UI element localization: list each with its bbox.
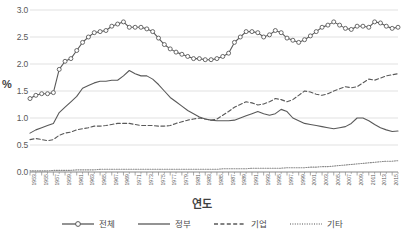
x-tick-label: 1965 [102,174,107,186]
x-tick-label: 1987 [231,174,236,186]
data-point-marker [69,57,73,61]
data-point-marker [297,40,301,44]
chart-legend: 전체정부기업기타 [0,219,403,229]
data-point-marker [256,31,260,35]
data-point-marker [133,25,137,29]
data-point-marker [92,31,96,35]
data-point-marker [180,52,184,56]
x-tick-label: 1995 [277,174,282,186]
x-tick-label: 1977 [172,174,177,186]
data-point-marker [98,30,102,34]
x-tick-label: 1975 [161,174,166,186]
data-point-marker [326,23,330,27]
data-point-marker [250,30,254,34]
data-point-marker [367,25,371,29]
data-point-marker [244,30,248,34]
data-point-marker [221,54,225,58]
data-point-marker [355,24,359,28]
legend-label: 기타 [327,219,343,229]
data-point-marker [110,24,114,28]
x-tick-label: 1983 [207,174,212,186]
data-point-marker [390,26,394,30]
x-tick-label: 2013 [382,174,387,186]
legend-item-전체[interactable]: 전체 [61,219,115,229]
data-point-marker [349,27,353,31]
data-point-marker [314,30,318,34]
data-point-marker [104,29,108,33]
data-point-marker [86,35,90,39]
x-tick-label: 1999 [301,174,306,186]
x-tick-label: 2011 [371,174,376,185]
data-point-marker [267,33,271,37]
data-point-marker [291,38,295,42]
legend-swatch-solid [137,219,171,229]
data-point-marker [186,54,190,58]
x-tick-label: 1971 [137,174,142,186]
data-point-marker [238,35,242,39]
x-tick-label: 1969 [125,174,130,186]
legend-label: 정부 [175,219,191,229]
data-point-marker [273,29,277,33]
x-axis-tick-labels: 1953195519571959196119631965196719691971… [30,174,398,196]
data-point-marker [332,20,336,24]
series-layer [28,20,400,171]
data-point-marker [121,20,125,24]
x-tick-label: 1957 [55,174,60,186]
data-point-marker [28,97,32,101]
data-point-marker [162,43,166,47]
gridlines [30,10,398,145]
legend-label: 전체 [99,219,115,229]
data-point-marker [396,25,400,29]
x-tick-label: 1993 [266,174,271,186]
x-tick-label: 1959 [67,174,72,186]
line-chart: % 0.00.51.01.52.02.53.0 1953195519571959… [0,0,403,250]
data-point-marker [51,91,55,95]
data-point-marker [127,25,131,29]
data-point-marker [320,25,324,29]
data-point-marker [338,23,342,27]
legend-item-기타[interactable]: 기타 [289,219,343,229]
x-axis-title: 연도 [0,195,403,211]
x-tick-label: 2009 [359,174,364,186]
x-tick-label: 1973 [149,174,154,186]
x-tick-label: 1961 [79,174,84,186]
data-point-marker [139,25,143,29]
x-tick-label: 1991 [254,174,259,186]
data-point-marker [303,38,307,42]
data-point-marker [34,93,38,97]
x-tick-label: 2003 [324,174,329,186]
data-point-marker [174,50,178,54]
legend-swatch-solid-marker [61,219,95,229]
data-point-marker [57,67,61,71]
series-line-기업 [30,74,398,141]
chart-canvas [0,0,403,250]
legend-item-기업[interactable]: 기업 [213,219,267,229]
data-point-marker [209,58,213,62]
x-tick-label: 2005 [336,174,341,186]
legend-item-정부[interactable]: 정부 [137,219,191,229]
data-point-marker [279,31,283,35]
data-point-marker [384,24,388,28]
data-point-marker [262,35,266,39]
data-point-marker [215,57,219,61]
x-tick-label: 1985 [219,174,224,186]
data-point-marker [378,21,382,25]
x-tick-label: 1981 [196,174,201,186]
series-line-정부 [30,70,398,133]
x-tick-label: 2001 [312,174,317,186]
legend-swatch-dotted [289,219,323,229]
x-tick-label: 1953 [32,174,37,186]
data-point-marker [63,59,67,63]
data-point-marker [373,20,377,24]
data-point-marker [151,30,155,34]
x-tick-label: 1979 [184,174,189,186]
data-point-marker [145,27,149,31]
data-point-marker [46,92,50,96]
data-point-marker [192,57,196,61]
data-point-marker [81,40,85,44]
legend-swatch-dashed [213,219,247,229]
x-tick-label: 1989 [242,174,247,186]
series-line-기타 [30,161,398,171]
data-point-marker [361,24,365,28]
x-tick-label: 1967 [114,174,119,186]
